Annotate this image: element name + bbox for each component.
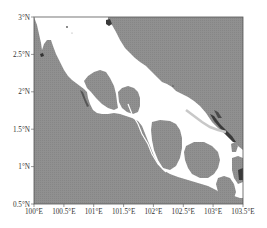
sea-islet xyxy=(172,85,174,87)
y-tick-label: 1°N xyxy=(18,163,30,171)
x-tick-label: 100.5°E xyxy=(52,208,76,216)
y-tick-label: 1.5°N xyxy=(13,126,31,134)
x-tick-label: 101.5°E xyxy=(112,208,136,216)
x-tick-label: 100°E xyxy=(25,208,44,216)
x-tick-label: 103.5°E xyxy=(231,208,255,216)
y-axis: 3°N 2.5°N 2°N 1.5°N 1°N 0.5°N xyxy=(13,14,34,209)
y-tick-label: 3°N xyxy=(18,14,30,22)
sea-islet xyxy=(71,32,72,33)
y-tick-label: 2.5°N xyxy=(13,51,31,59)
x-tick-label: 101°E xyxy=(85,208,104,216)
sea-islet xyxy=(66,26,68,28)
x-tick-label: 102.5°E xyxy=(172,208,196,216)
x-tick-label: 102°E xyxy=(144,208,163,216)
map-figure: 3°N 2.5°N 2°N 1.5°N 1°N 0.5°N 100°E 100.… xyxy=(0,0,267,228)
plot-area xyxy=(34,17,243,204)
x-axis: 100°E 100.5°E 101°E 101.5°E 102°E 102.5°… xyxy=(25,204,255,216)
y-tick-label: 2°N xyxy=(18,88,30,96)
x-tick-label: 103°E xyxy=(204,208,223,216)
